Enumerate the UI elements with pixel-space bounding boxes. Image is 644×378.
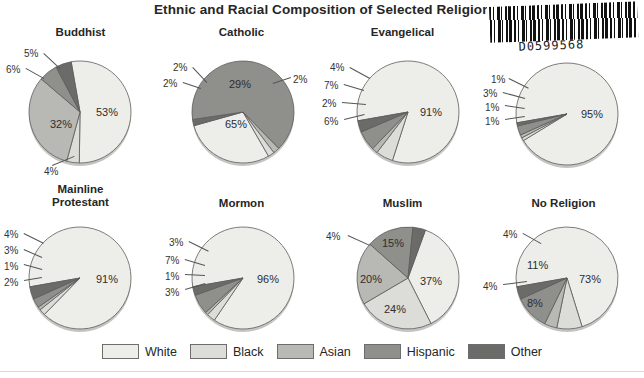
legend-item-other: Other	[468, 344, 542, 359]
slice-label-asian: 1%	[485, 102, 499, 113]
slice-label-white: 29%	[229, 78, 251, 90]
pie-chart-catholic: Catholic29%65%2%2%2%	[161, 26, 322, 181]
slice-label-black: 1%	[485, 116, 499, 127]
slice-label-white: 53%	[96, 106, 118, 118]
chart-title-line: Protestant	[0, 196, 161, 209]
legend-swatch-asian	[277, 344, 314, 359]
slice-label-hispanic: 11%	[527, 259, 548, 271]
pie-svg	[512, 223, 622, 338]
slice-label-asian: 2%	[173, 62, 187, 73]
pie-svg	[25, 223, 135, 338]
slice-label-other: 4%	[326, 231, 340, 242]
slice-label-black: 4%	[44, 166, 58, 177]
slice-label-black: 24%	[384, 303, 406, 315]
slice-label-other: 4%	[503, 229, 517, 240]
legend-swatch-white	[102, 344, 139, 359]
chart-title-line: Buddhist	[0, 26, 161, 39]
pie-chart-mormon: Mormon96%3%7%1%3%	[161, 181, 322, 336]
slice-label-other: 5%	[24, 48, 38, 59]
legend-label: White	[145, 345, 177, 359]
slice-label-hispanic: 6%	[6, 64, 20, 75]
slice-label-hispanic: 3%	[483, 88, 497, 99]
pie-chart-evangelical: Evangelical91%4%7%2%6%	[322, 26, 483, 181]
slice-label-white: 95%	[581, 108, 603, 120]
slice-label-hispanic: 3%	[4, 245, 18, 256]
chart-title: Muslim	[322, 197, 483, 210]
slice-label-asian: 32%	[50, 118, 72, 130]
pie-chart-buddhist: Buddhist53%4%32%6%5%	[0, 26, 161, 181]
legend-item-asian: Asian	[277, 344, 351, 359]
chart-title-line: Mormon	[161, 197, 322, 210]
slice-label-white: 91%	[96, 273, 118, 285]
slice-label-black: 2%	[4, 277, 18, 288]
legend-swatch-hispanic	[364, 344, 401, 359]
slice-label-other: 3%	[165, 287, 179, 298]
slice-label-black: 2%	[163, 78, 177, 89]
chart-title: Catholic	[161, 26, 322, 39]
legend: WhiteBlackAsianHispanicOther	[0, 344, 644, 359]
pie-svg	[188, 223, 298, 338]
slice-label-white: 96%	[257, 273, 279, 285]
slice-label-white: 91%	[420, 106, 442, 118]
chart-title: No Religion	[483, 197, 644, 210]
pie-chart-grid: Buddhist53%4%32%6%5%Catholic29%65%2%2%2%…	[0, 26, 644, 336]
slice-label-other: 4%	[4, 229, 18, 240]
legend-label: Hispanic	[407, 345, 455, 359]
slice-label-other: 2%	[293, 74, 307, 85]
chart-title: Evangelical	[322, 26, 483, 39]
chart-title: MainlineProtestant	[0, 183, 161, 209]
slice-label-other: 1%	[491, 74, 505, 85]
chart-title-line: Muslim	[322, 197, 483, 210]
footer-rule	[0, 371, 644, 372]
chart-title: Mormon	[161, 197, 322, 210]
slice-label-black: 3%	[169, 237, 183, 248]
slice-label-hispanic: 7%	[165, 255, 179, 266]
chart-title-line: No Religion	[483, 197, 644, 210]
slice-label-hispanic: 7%	[324, 80, 338, 91]
chart-title-line: Catholic	[161, 26, 322, 39]
legend-item-hispanic: Hispanic	[364, 344, 455, 359]
chart-title-line: Mainline	[0, 183, 161, 196]
legend-label: Black	[233, 345, 264, 359]
legend-item-white: White	[102, 344, 177, 359]
legend-item-black: Black	[190, 344, 264, 359]
pie-chart-no-religion: No Religion73%11%8%4%4%	[483, 181, 644, 336]
slice-label-white: 73%	[579, 273, 601, 285]
slice-label-asian: 2%	[322, 98, 336, 109]
slice-label-other: 4%	[330, 62, 344, 73]
pie-svg	[353, 57, 463, 172]
legend-swatch-other	[468, 344, 505, 359]
pie-chart-jewish: 95%1%3%1%1%	[483, 26, 644, 181]
pie-svg	[188, 57, 298, 172]
pie-chart-mainline-protestant: MainlineProtestant91%4%3%1%2%	[0, 181, 161, 336]
slice-label-black: 8%	[527, 297, 543, 309]
chart-title: Buddhist	[0, 26, 161, 39]
slice-label-asian: 4%	[483, 281, 497, 292]
legend-label: Asian	[320, 345, 351, 359]
pie-chart-muslim: Muslim37%15%20%24%4%	[322, 181, 483, 336]
slice-label-hispanic: 15%	[382, 237, 404, 249]
slice-label-asian: 1%	[165, 271, 179, 282]
legend-swatch-black	[190, 344, 227, 359]
slice-label-asian: 1%	[4, 261, 18, 272]
slice-label-asian: 20%	[360, 273, 382, 285]
pie-svg	[25, 57, 135, 172]
pie-svg	[512, 59, 622, 174]
slice-label-white: 37%	[420, 275, 442, 287]
slice-label-black: 6%	[324, 116, 338, 127]
chart-title-line: Evangelical	[322, 26, 483, 39]
slice-label-hispanic: 65%	[225, 118, 247, 130]
legend-label: Other	[511, 345, 542, 359]
